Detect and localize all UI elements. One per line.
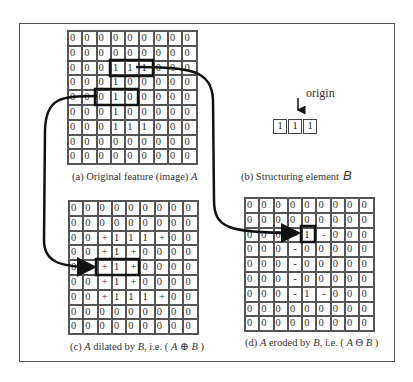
grid-cell: 1 [302,287,316,302]
caption-a-text: (a) Original feature (image) [72,171,191,182]
grid-cell: 0 [112,305,126,320]
grid-cell: 0 [168,31,182,46]
grid-cell: 0 [83,201,97,216]
grid-cell: + [98,245,112,260]
grid-cell: 0 [111,31,125,46]
structuring-element: 1 1 1 [273,119,317,134]
grid-cell: 0 [83,245,97,260]
grid-cell: + [98,290,112,305]
grid-cell: 0 [169,275,183,290]
caption-text: , i.e. ( [320,337,347,348]
grid-cell: 0 [331,198,345,213]
grid-cell: - [288,287,302,302]
grid-cell: - [316,228,330,243]
grid-cell: 0 [316,257,330,272]
grid-cell: 0 [274,272,288,287]
grid-cell: 0 [182,105,196,120]
grid-cell: 0 [345,228,359,243]
grid-cell: 0 [245,287,259,302]
grid-cell: 1 [111,61,125,76]
grid-cell: 0 [302,213,316,228]
grid-cell: 0 [68,105,82,120]
grid-cell: 0 [359,272,373,287]
grid-cell: 0 [274,213,288,228]
grid-cell: 0 [155,305,169,320]
grid-cell: 0 [154,120,168,135]
grid-cell: 0 [68,135,82,150]
grid-cell: 1 [302,228,316,243]
grid-cell: 0 [316,213,330,228]
grid-cell: 0 [183,216,197,231]
grid-cell: 0 [302,257,316,272]
grid-cell: 0 [169,216,183,231]
grid-cell: 0 [155,216,169,231]
grid-cell: 0 [97,105,111,120]
grid-cell: 0 [359,257,373,272]
grid-cell: 0 [359,302,373,317]
grid-cell: 0 [245,257,259,272]
caption-a-symbol: A [191,171,197,182]
grid-cell: 0 [183,260,197,275]
grid-cell: 1 [139,120,153,135]
grid-cell: 0 [83,260,97,275]
grid-cell: 1 [111,90,125,105]
grid-cell: 0 [331,287,345,302]
grid-cell: 0 [259,198,273,213]
grid-cell: 0 [139,149,153,164]
caption-text: Θ [353,337,366,348]
grid-cell: 0 [82,46,96,61]
grid-cell: 0 [182,90,196,105]
grid-cell: 0 [154,105,168,120]
grid-cell: - [288,228,302,243]
grid-cell: 0 [139,46,153,61]
grid-cell: 0 [245,302,259,317]
grid-cell: 0 [82,120,96,135]
grid-cell: 0 [316,302,330,317]
grid-cell: 0 [97,90,111,105]
grid-cell: 0 [97,75,111,90]
grid-cell: 0 [345,287,359,302]
grid-cell: 0 [316,242,330,257]
grid-cell: 0 [83,216,97,231]
grid-cell: 0 [359,228,373,243]
grid-cell: 0 [183,305,197,320]
grid-cell: 0 [83,319,97,334]
grid-cell: 0 [155,319,169,334]
grid-cell: 0 [331,316,345,331]
grid-cell: 0 [359,242,373,257]
grid-cell: 0 [183,319,197,334]
grid-cell: + [155,290,169,305]
grid-cell: 0 [68,75,82,90]
grid-cell: 0 [125,75,139,90]
grid-cell: 0 [97,149,111,164]
grid-cell: 0 [83,231,97,246]
grid-cell: 0 [169,245,183,260]
grid-cell: 0 [98,201,112,216]
grid-cell: 0 [112,216,126,231]
grid-cell: 0 [69,201,83,216]
grid-cell: 0 [168,135,182,150]
caption-text: dilated by [91,341,138,352]
grid-cell: 0 [345,242,359,257]
grid-cell: 0 [168,90,182,105]
grid-cell: 1 [112,245,126,260]
grid-cell: 0 [245,242,259,257]
grid-cell: 1 [112,290,126,305]
grid-cell: 0 [182,75,196,90]
grid-cell: 0 [125,105,139,120]
grid-cell: 0 [140,275,154,290]
grid-cell: + [126,275,140,290]
grid-cell: 0 [345,257,359,272]
grid-cell: 0 [168,120,182,135]
grid-cell: 0 [259,287,273,302]
grid-cell: 0 [183,245,197,260]
grid-cell: 0 [345,316,359,331]
grid-cell: 0 [111,46,125,61]
grid-cell: 0 [168,149,182,164]
grid-cell: 0 [82,105,96,120]
grid-cell: 0 [274,287,288,302]
grid-cell: 0 [155,245,169,260]
grid-cell: 0 [274,242,288,257]
grid-cell: 0 [69,319,83,334]
grid-cell: 0 [182,149,196,164]
